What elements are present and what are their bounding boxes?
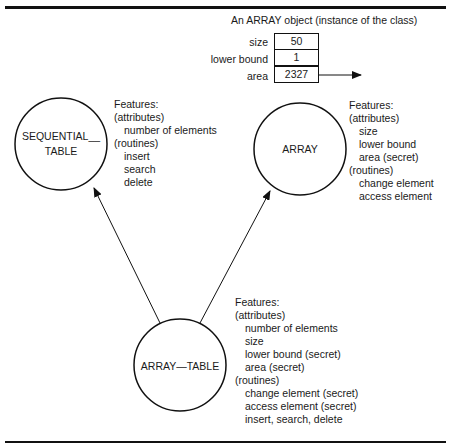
attribute-item: number of elements — [235, 322, 358, 335]
routine-item: delete — [114, 176, 217, 189]
routine-item: insert — [114, 150, 217, 163]
routine-item: access element (secret) — [235, 400, 358, 413]
attributes-header: (attributes) — [235, 309, 358, 322]
field-label-lower-bound: lower bound — [198, 53, 268, 65]
attributes-header: (attributes) — [349, 112, 434, 125]
routine-item: change element (secret) — [235, 387, 358, 400]
field-label-area: area — [198, 70, 268, 82]
routine-item: access element — [349, 190, 434, 203]
field-label-size: size — [198, 36, 268, 48]
routine-item: insert, search, delete — [235, 413, 358, 426]
routines-header: (routines) — [349, 164, 434, 177]
sequential-table-features: Features: (attributes) number of element… — [114, 98, 217, 189]
sequential-table-name: SEQUENTIAL__ TABLE — [15, 129, 107, 159]
attributes-header: (attributes) — [114, 111, 217, 124]
field-value-size: 50 — [274, 33, 319, 50]
attribute-item: size — [235, 335, 358, 348]
attribute-item: area (secret) — [349, 151, 434, 164]
attribute-item: number of elements — [114, 124, 217, 137]
attribute-item: area (secret) — [235, 361, 358, 374]
array-table-features: Features: (attributes) number of element… — [235, 296, 358, 426]
features-title: Features: — [114, 98, 217, 111]
field-value-area: 2327 — [274, 66, 319, 83]
attribute-item: size — [349, 125, 434, 138]
sequential-table-name-line1: SEQUENTIAL__ — [15, 129, 107, 144]
features-title: Features: — [349, 99, 434, 112]
object-caption: An ARRAY object (instance of the class) — [231, 14, 417, 27]
routines-header: (routines) — [114, 137, 217, 150]
attribute-item: lower bound (secret) — [235, 348, 358, 361]
attribute-item: lower bound — [349, 138, 434, 151]
features-title: Features: — [235, 296, 358, 309]
array-features: Features: (attributes) size lower bound … — [349, 99, 434, 203]
routine-item: search — [114, 163, 217, 176]
routines-header: (routines) — [235, 374, 358, 387]
array-name: ARRAY — [254, 142, 346, 157]
routine-item: change element — [349, 177, 434, 190]
field-value-lower-bound: 1 — [274, 49, 319, 66]
sequential-table-name-line2: TABLE — [15, 144, 107, 159]
diagram-lines — [0, 0, 450, 446]
array-table-name: ARRAY—TABLE — [134, 359, 226, 374]
inherit-arrow-sequential — [94, 188, 160, 323]
